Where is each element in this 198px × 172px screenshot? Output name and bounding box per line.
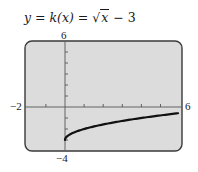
y-min-label: −4 xyxy=(56,153,68,164)
screen-frame xyxy=(25,41,182,151)
x-min-label: −2 xyxy=(10,101,22,112)
y-max-label: 6 xyxy=(61,30,67,41)
x-max-label: 6 xyxy=(185,101,191,112)
graphing-calculator-screen xyxy=(0,0,198,172)
